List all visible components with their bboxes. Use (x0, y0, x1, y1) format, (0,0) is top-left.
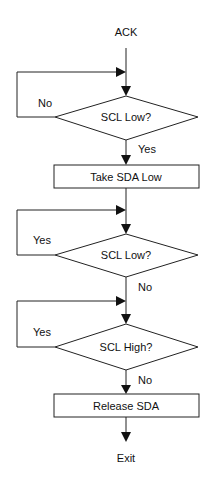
decision-2-no-label: No (138, 281, 152, 293)
arrow-right-icon (116, 205, 126, 215)
decision-1-label: SCL Low? (101, 111, 151, 123)
decision-3-label: SCL High? (100, 341, 153, 353)
flowchart-diagram: ACK SCL Low? No Yes Take SDA Low SCL Low… (0, 0, 215, 488)
arrow-down-icon (121, 432, 131, 442)
arrow-down-icon (121, 385, 131, 394)
arrow-right-icon (116, 67, 126, 77)
decision-2-label: SCL Low? (101, 249, 151, 261)
process-2-label: Release SDA (93, 400, 160, 412)
arrow-down-icon (121, 155, 131, 165)
arrow-right-icon (116, 296, 126, 306)
decision-1-yes-label: Yes (138, 143, 156, 155)
arrow-down-icon (121, 314, 131, 324)
decision-3-yes-label: Yes (33, 326, 51, 338)
process-1-label: Take SDA Low (90, 171, 162, 183)
decision-2-yes-label: Yes (33, 234, 51, 246)
arrow-down-icon (121, 224, 131, 234)
decision-1-no-label: No (38, 97, 52, 109)
arrow-down-icon (121, 86, 131, 96)
start-label: ACK (115, 26, 138, 38)
end-label: Exit (117, 452, 135, 464)
decision-3-no-label: No (138, 374, 152, 386)
